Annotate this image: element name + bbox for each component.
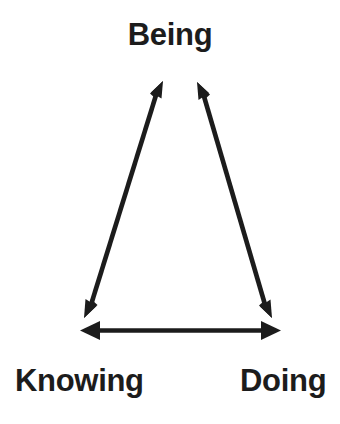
edge-knowing-doing-arrowhead-left (80, 321, 100, 340)
node-label-knowing: Knowing (15, 365, 144, 396)
edge-being-knowing (84, 81, 163, 318)
triangle-arrows-graphic (0, 0, 340, 424)
node-label-being: Being (0, 19, 340, 50)
edge-being-doing (197, 82, 272, 318)
edge-being-knowing-shaft (90, 92, 157, 308)
edge-knowing-doing (80, 321, 281, 340)
node-label-doing: Doing (240, 365, 326, 396)
edge-knowing-doing-arrowhead-right (261, 321, 281, 340)
edge-being-doing-shaft (203, 93, 266, 308)
diagram-canvas: Being Knowing Doing (0, 0, 340, 424)
